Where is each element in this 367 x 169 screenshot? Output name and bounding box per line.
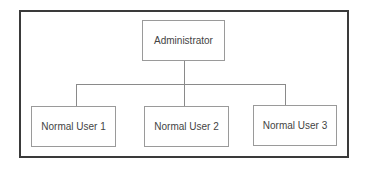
node-normal-user-2: Normal User 2 — [144, 106, 229, 147]
node-administrator: Administrator — [142, 20, 225, 61]
connector-child-3 — [285, 84, 286, 105]
node-normal-user-3: Normal User 3 — [253, 105, 337, 146]
connector-child-1 — [76, 84, 77, 106]
connector-child-2 — [184, 84, 185, 106]
node-normal-user-1: Normal User 1 — [31, 106, 116, 147]
node-label: Normal User 2 — [154, 121, 218, 132]
node-label: Normal User 1 — [41, 121, 105, 132]
connector-horizontal-bus — [76, 84, 286, 85]
node-label: Administrator — [154, 35, 213, 46]
connector-root-vertical — [184, 61, 185, 85]
node-label: Normal User 3 — [263, 120, 327, 131]
